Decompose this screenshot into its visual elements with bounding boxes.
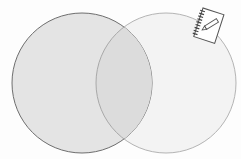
venn-diagram [0, 0, 241, 159]
venn-svg [0, 0, 241, 159]
